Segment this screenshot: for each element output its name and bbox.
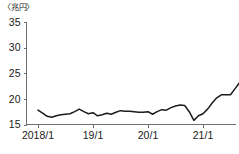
x-tick-labels: 2018/119/120/121/1 <box>22 129 213 141</box>
x-tick-label: 21/1 <box>193 129 214 141</box>
y-tick-label: 20 <box>9 93 21 105</box>
y-tick-label: 30 <box>9 41 21 53</box>
x-tick-label: 2018/1 <box>22 129 54 141</box>
data-series-line <box>38 46 239 121</box>
line-chart: 1520253035 2018/119/120/121/1 <box>0 0 239 154</box>
x-tick-label: 19/1 <box>83 129 104 141</box>
y-tick-label: 25 <box>9 67 21 79</box>
x-axis-group: 2018/119/120/121/1 <box>22 125 236 141</box>
y-tick-label: 35 <box>9 16 21 28</box>
y-tick-label: 15 <box>9 118 21 130</box>
y-axis-group: 1520253035 <box>9 16 27 131</box>
y-tick-labels: 1520253035 <box>9 16 21 131</box>
x-tick-label: 20/1 <box>138 129 159 141</box>
chart-container: 〈兆円〉 1520253035 2018/119/120/121/1 <box>0 0 239 154</box>
